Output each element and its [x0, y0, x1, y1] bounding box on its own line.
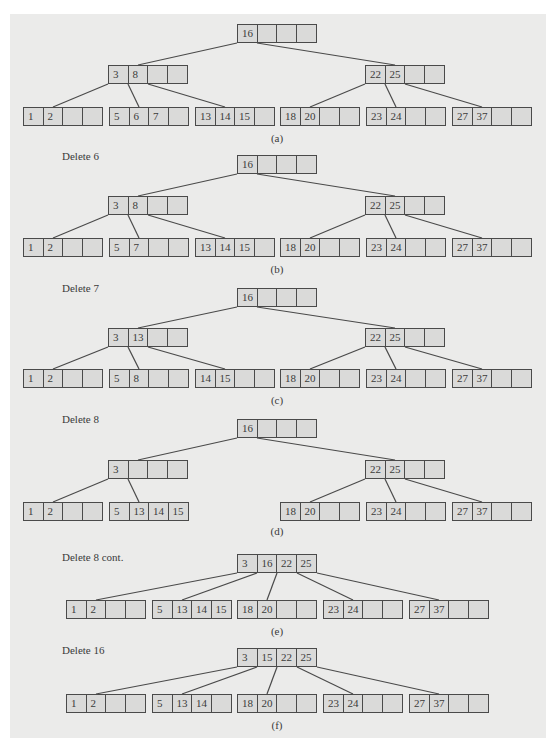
leaf-node: 2737: [452, 107, 532, 126]
key-cell: [63, 370, 83, 387]
key-cell: [492, 370, 512, 387]
key-cell: [426, 370, 445, 387]
key-cell: [469, 601, 488, 618]
leaf-node: 2737: [452, 369, 532, 388]
key-cell: 5: [110, 108, 130, 125]
internal-node: 313: [108, 328, 188, 347]
key-cell: 22: [366, 461, 386, 478]
key-cell: 2: [44, 239, 64, 256]
key-cell: [258, 156, 278, 173]
key-cell: [512, 503, 531, 520]
root-node: 16: [237, 419, 317, 438]
key-cell: [512, 239, 531, 256]
leaf-node: 2324: [366, 502, 446, 521]
step-label: Delete 8: [62, 413, 99, 425]
leaf-node: 5131415: [152, 600, 232, 619]
leaf-node: 2324: [323, 600, 403, 619]
key-cell: [255, 370, 274, 387]
leaf-node: 2324: [366, 107, 446, 126]
step-label: Delete 8 cont.: [62, 551, 123, 563]
leaf-node: 2737: [409, 694, 489, 713]
key-cell: 25: [297, 649, 316, 666]
root-node: 16: [237, 155, 317, 174]
key-cell: [169, 108, 188, 125]
key-cell: [425, 197, 444, 214]
key-cell: 13: [196, 108, 216, 125]
key-cell: 5: [110, 370, 130, 387]
key-cell: [383, 601, 402, 618]
key-cell: 5: [153, 601, 173, 618]
key-cell: 20: [258, 695, 278, 712]
leaf-node: 567: [109, 107, 189, 126]
leaf-node: 12: [23, 502, 103, 521]
key-cell: 24: [387, 370, 407, 387]
key-cell: 25: [386, 197, 406, 214]
key-cell: [63, 503, 83, 520]
key-cell: 1: [24, 503, 44, 520]
key-cell: [405, 329, 425, 346]
key-cell: [277, 420, 297, 437]
key-cell: 14: [216, 108, 236, 125]
key-cell: [83, 503, 102, 520]
key-cell: 18: [238, 695, 258, 712]
key-cell: [277, 156, 297, 173]
leaf-node: 2737: [452, 502, 532, 521]
key-cell: [340, 503, 359, 520]
key-cell: [212, 695, 231, 712]
step-label: Delete 16: [62, 644, 104, 656]
key-cell: 3: [238, 649, 258, 666]
key-cell: [169, 239, 188, 256]
key-cell: [149, 370, 169, 387]
key-cell: [148, 66, 168, 83]
key-cell: 27: [410, 695, 430, 712]
key-cell: [235, 370, 255, 387]
key-cell: [320, 239, 340, 256]
internal-node: 2225: [365, 328, 445, 347]
root-node: 3152225: [237, 648, 317, 667]
key-cell: [297, 601, 316, 618]
step-label: Delete 7: [62, 282, 99, 294]
key-cell: 14: [192, 695, 212, 712]
key-cell: [406, 503, 426, 520]
key-cell: 23: [324, 601, 344, 618]
key-cell: [106, 601, 126, 618]
key-cell: [277, 289, 297, 306]
key-cell: 37: [430, 601, 450, 618]
key-cell: 1: [67, 695, 87, 712]
key-cell: 3: [109, 329, 129, 346]
key-cell: 18: [281, 503, 301, 520]
step-label: Delete 6: [62, 150, 99, 162]
key-cell: 3: [109, 461, 129, 478]
key-cell: [149, 239, 169, 256]
key-cell: [340, 370, 359, 387]
key-cell: [426, 239, 445, 256]
key-cell: [492, 108, 512, 125]
subfigure-caption: (f): [257, 719, 297, 731]
key-cell: [126, 601, 145, 618]
key-cell: [255, 239, 274, 256]
key-cell: 24: [344, 601, 364, 618]
subfigure-caption: (d): [257, 525, 297, 537]
key-cell: 16: [238, 25, 258, 42]
key-cell: 18: [281, 239, 301, 256]
key-cell: 18: [238, 601, 258, 618]
key-cell: [320, 370, 340, 387]
key-cell: [83, 239, 102, 256]
key-cell: [512, 108, 531, 125]
key-cell: 6: [130, 108, 150, 125]
key-cell: 5: [153, 695, 173, 712]
key-cell: [425, 66, 444, 83]
key-cell: 7: [149, 108, 169, 125]
leaf-node: 2324: [366, 369, 446, 388]
key-cell: [277, 695, 297, 712]
internal-node: 38: [108, 196, 188, 215]
key-cell: [168, 329, 187, 346]
key-cell: 23: [367, 503, 387, 520]
key-cell: [297, 420, 316, 437]
key-cell: 37: [473, 239, 493, 256]
key-cell: [258, 25, 278, 42]
key-cell: [449, 601, 469, 618]
key-cell: [148, 329, 168, 346]
key-cell: 22: [277, 649, 297, 666]
key-cell: 23: [367, 239, 387, 256]
